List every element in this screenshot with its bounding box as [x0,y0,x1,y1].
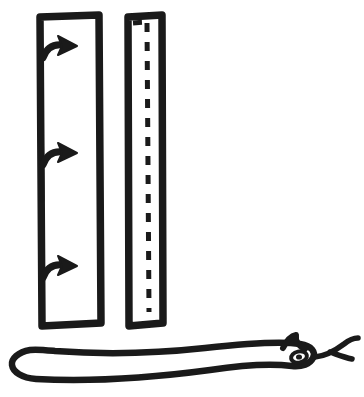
figure-svg [0,0,364,397]
canvas-background [0,0,364,397]
snake-eye-pupil [296,354,302,359]
drawing-canvas [0,0,364,397]
